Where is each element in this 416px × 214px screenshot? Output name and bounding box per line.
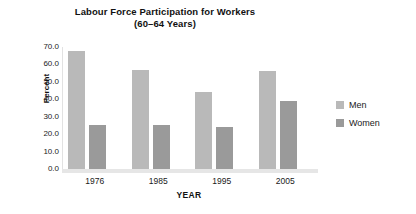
chart-legend: MenWomen (336, 96, 380, 132)
y-axis-tick: 20.0 (30, 130, 59, 138)
x-axis-tick: 1995 (192, 176, 252, 186)
y-axis-tick: 40.0 (30, 95, 59, 103)
legend-label: Men (349, 100, 367, 110)
x-axis-tick: 1976 (65, 176, 125, 186)
y-axis-tick-labels: 0.010.020.030.040.050.060.070.0 (30, 47, 59, 169)
bar-group (63, 47, 127, 169)
legend-item-men[interactable]: Men (336, 96, 380, 114)
chart-title-block: Labour Force Participation for Workers (… (0, 6, 330, 30)
chart-title: Labour Force Participation for Workers (0, 6, 330, 18)
plot-area (62, 47, 316, 169)
x-axis-baseline (62, 169, 318, 173)
y-axis-tick: 30.0 (30, 113, 59, 121)
bar-men-2005 (259, 71, 276, 169)
bar-men-1985 (132, 70, 149, 169)
y-axis-tick: 60.0 (30, 60, 59, 68)
bar-group (190, 47, 254, 169)
x-axis-tick-labels: 1976198519952005 (62, 176, 316, 188)
bar-men-1976 (68, 51, 85, 170)
legend-swatch-men (336, 101, 344, 109)
legend-swatch-women (336, 119, 344, 127)
chart-figure: Labour Force Participation for Workers (… (0, 0, 416, 214)
bar-women-1976 (89, 125, 106, 169)
bar-group (127, 47, 191, 169)
y-axis-tick: 0.0 (30, 165, 59, 173)
bar-men-1995 (195, 92, 212, 169)
chart-subtitle: (60–64 Years) (0, 18, 330, 30)
y-axis-tick: 10.0 (30, 148, 59, 156)
bar-group (254, 47, 318, 169)
y-axis-tick: 50.0 (30, 78, 59, 86)
bar-women-1995 (216, 127, 233, 169)
x-axis-label: YEAR (62, 190, 316, 200)
x-axis-tick: 1985 (128, 176, 188, 186)
bar-women-1985 (153, 125, 170, 169)
x-axis-tick: 2005 (255, 176, 315, 186)
legend-label: Women (349, 118, 380, 128)
bar-women-2005 (280, 101, 297, 169)
legend-item-women[interactable]: Women (336, 114, 380, 132)
y-axis-tick: 70.0 (30, 43, 59, 51)
